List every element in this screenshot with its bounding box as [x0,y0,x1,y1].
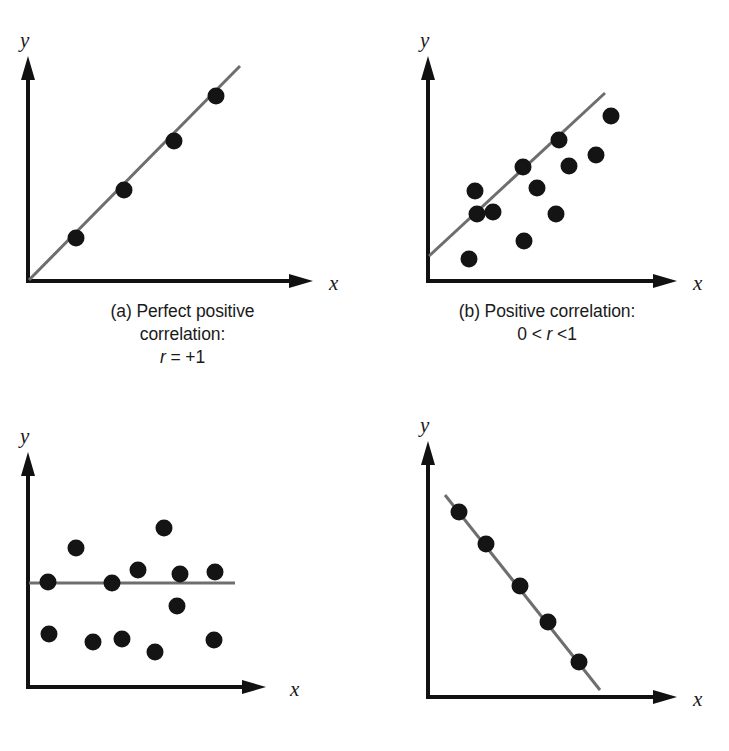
x-axis-label: x [328,271,339,295]
data-point [516,233,533,250]
data-point [104,575,121,592]
y-axis-label: y [418,28,430,52]
data-point [515,159,532,176]
data-point [169,598,186,615]
panel-a-caption: (a) Perfect positive correlation: r = +1 [0,300,365,369]
x-axis [426,690,677,704]
caption-line-1: (a) Perfect positive [0,300,365,323]
data-point [147,644,164,661]
data-point [85,634,102,651]
y-axis [21,56,35,281]
data-point [588,147,605,164]
data-point [529,180,546,197]
data-point [40,574,57,591]
data-point [540,614,557,631]
data-point [551,132,568,149]
x-axis-label: x [692,271,703,295]
r-value: <1 [552,324,577,344]
data-point [485,204,502,221]
correlation-figure: y x (a) Perfect positive correlation: r … [0,0,729,751]
caption-line-2: 0 < r <1 [365,323,729,346]
data-point [548,206,565,223]
caption-line-1: (b) Positive correlation: [365,300,729,323]
x-axis [26,274,313,288]
data-points [40,520,224,661]
data-point [166,133,183,150]
data-point [116,182,133,199]
x-axis-label: x [289,677,300,701]
data-point [451,504,468,521]
panel-c-plot: y x [0,375,365,751]
data-point [156,520,173,537]
x-axis-label: x [692,687,703,711]
caption-line-2: correlation: [0,323,365,346]
r-value: = +1 [166,347,205,367]
y-axis [21,452,35,687]
trend-line [429,93,605,256]
data-point [172,566,189,583]
y-axis-label: y [418,413,430,437]
data-point [206,632,223,649]
data-point [114,631,131,648]
data-point [461,251,478,268]
caption-line-3: r = +1 [0,346,365,369]
panel-d-plot: y x [365,375,729,751]
data-point [207,564,224,581]
r-prefix: 0 < [517,324,546,344]
data-point [512,578,529,595]
panel-c-no-correlation: y x (c) No correlation: r = 0 [0,375,365,751]
y-axis [421,56,435,281]
y-axis [421,441,435,697]
data-points [461,108,620,268]
y-axis-label: y [18,424,30,448]
data-point [208,88,225,105]
x-axis [426,274,677,288]
data-point [478,536,495,553]
data-point [68,540,85,557]
data-point [469,206,486,223]
panel-b-caption: (b) Positive correlation: 0 < r <1 [365,300,729,346]
data-point [130,562,147,579]
data-point [561,158,578,175]
panel-d-perfect-negative: y x (d) Perfect negative correlation: [365,375,729,751]
data-point [41,626,58,643]
data-point [603,108,620,125]
x-axis [26,680,266,694]
data-point [571,654,588,671]
y-axis-label: y [18,28,30,52]
data-point [68,230,85,247]
panel-a-perfect-positive: y x (a) Perfect positive correlation: r … [0,0,365,375]
data-point [467,183,484,200]
data-points [68,88,225,247]
panel-b-positive-correlation: y x (b) Positive correlation: 0 < r <1 [365,0,729,375]
